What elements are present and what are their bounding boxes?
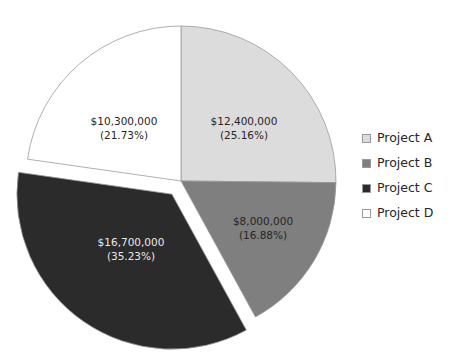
legend-item-label: Project A xyxy=(377,132,432,145)
legend-item-project-b[interactable]: Project B xyxy=(362,151,462,176)
legend-item-label: Project C xyxy=(377,182,432,195)
legend-swatch-icon xyxy=(362,134,371,143)
legend-item-project-a[interactable]: Project A xyxy=(362,126,462,151)
pie-plot-area: $12,400,000(25.16%)$8,000,000(16.88%)$16… xyxy=(0,0,355,360)
legend-item-project-c[interactable]: Project C xyxy=(362,176,462,201)
pie-chart: $12,400,000(25.16%)$8,000,000(16.88%)$16… xyxy=(0,0,463,360)
legend-item-label: Project B xyxy=(377,157,432,170)
legend-swatch-icon xyxy=(362,159,371,168)
pie-slice-project-a[interactable] xyxy=(181,26,336,183)
pie-svg: $12,400,000(25.16%)$8,000,000(16.88%)$16… xyxy=(0,0,355,360)
legend-swatch-icon xyxy=(362,209,371,218)
pie-slice-project-d[interactable] xyxy=(28,26,181,181)
legend-item-label: Project D xyxy=(377,207,433,220)
pie-slices-group xyxy=(17,26,336,349)
legend-item-project-d[interactable]: Project D xyxy=(362,201,462,226)
chart-legend: Project AProject BProject CProject D xyxy=(362,126,462,226)
legend-swatch-icon xyxy=(362,184,371,193)
